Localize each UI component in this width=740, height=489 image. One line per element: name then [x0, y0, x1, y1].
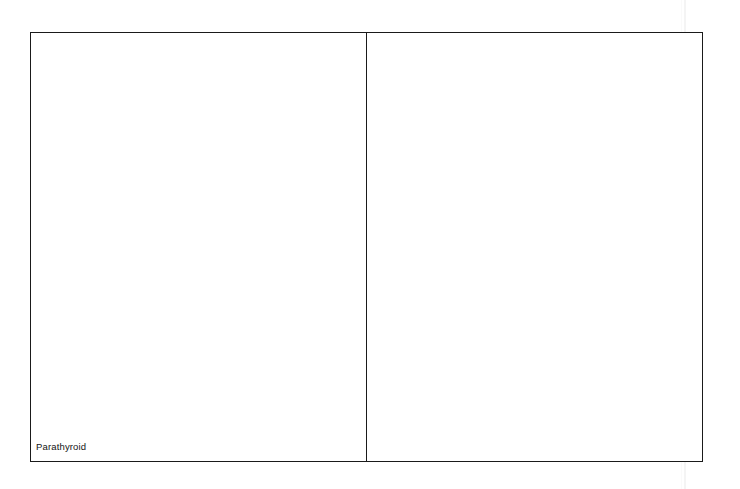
figure-panel-right-body — [367, 33, 702, 461]
figure-canvas: Parathyroid — [0, 0, 740, 489]
figure-panel-left-body — [31, 33, 366, 461]
figure-panel-right — [367, 33, 702, 461]
figure-panel-left: Parathyroid — [31, 33, 367, 461]
figure-panel-left-caption: Parathyroid — [36, 441, 86, 452]
figure-frame: Parathyroid — [30, 32, 703, 462]
